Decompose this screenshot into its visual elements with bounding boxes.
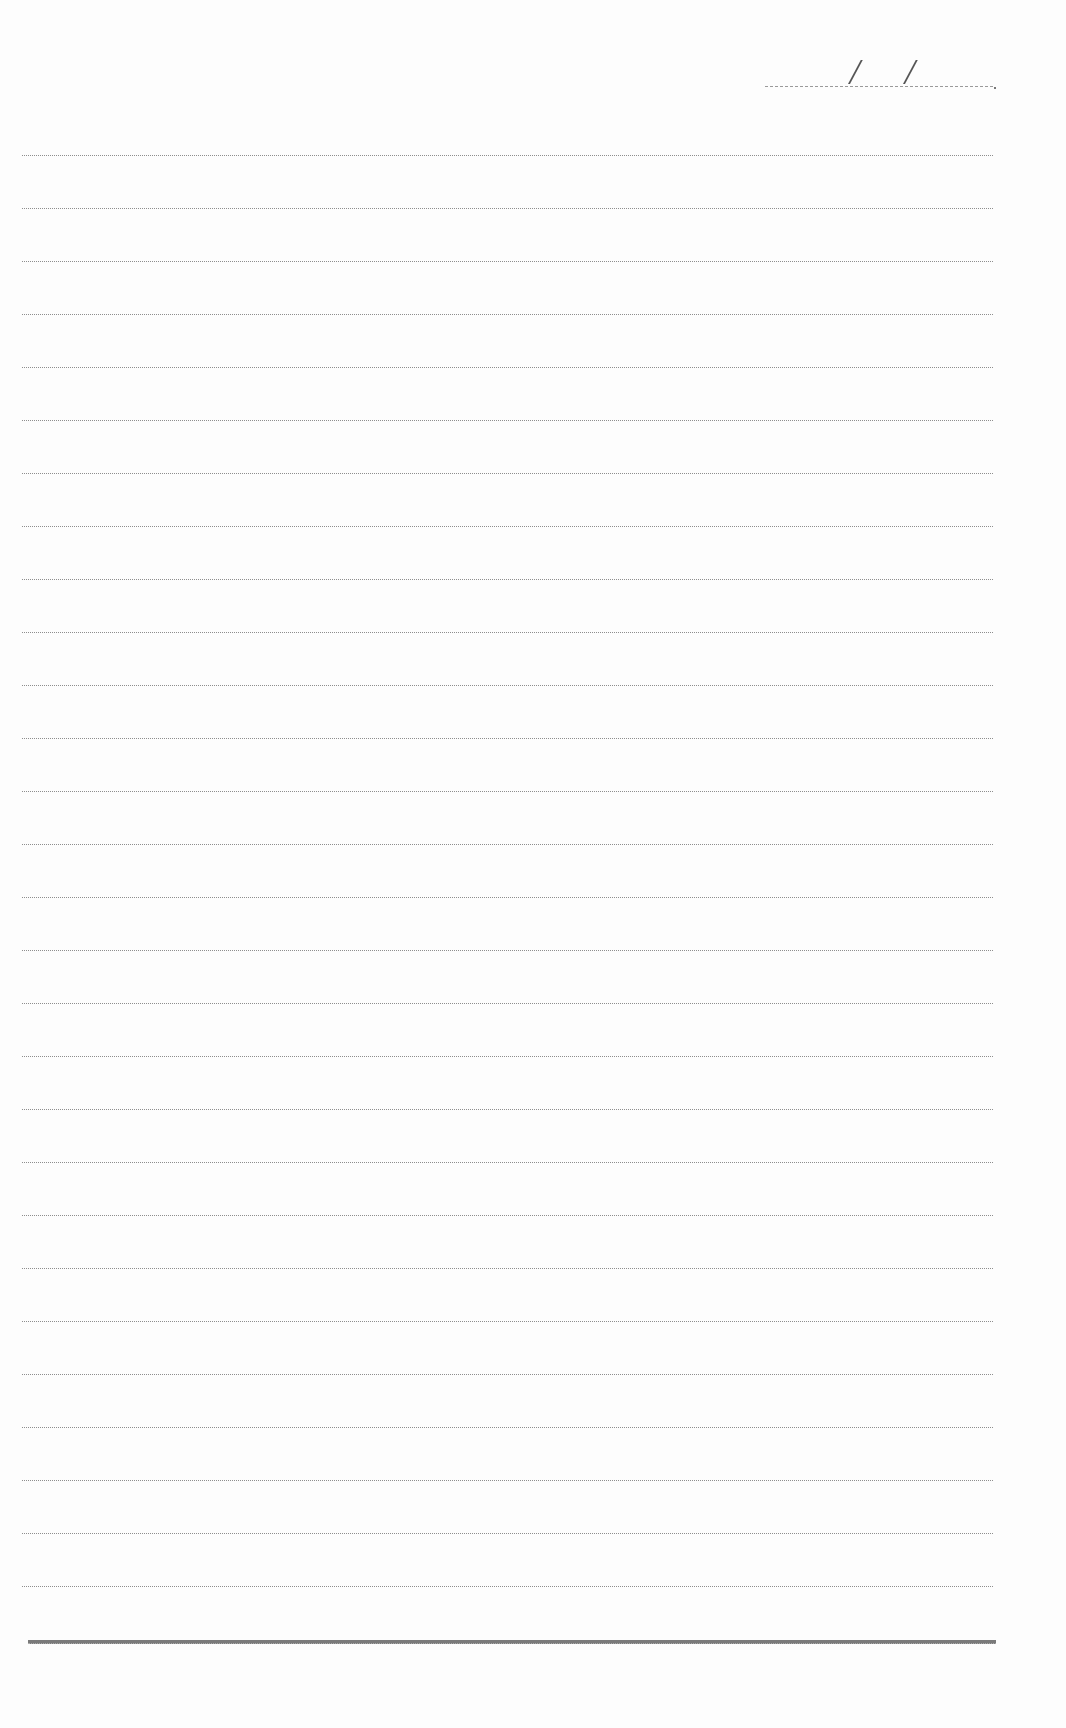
date-field[interactable] <box>765 55 993 87</box>
date-separator-slash <box>848 60 863 84</box>
ruled-line <box>22 1427 993 1428</box>
ruled-line <box>22 155 993 156</box>
ruled-line <box>22 1533 993 1534</box>
ruled-line <box>22 897 993 898</box>
date-separator-slash <box>903 60 918 84</box>
ruled-line <box>22 473 993 474</box>
ruled-line <box>22 1321 993 1322</box>
ruled-line <box>22 1162 993 1163</box>
notebook-page <box>0 0 1066 1728</box>
ruled-line <box>22 844 993 845</box>
ruled-line <box>22 685 993 686</box>
ruled-line <box>22 420 993 421</box>
ruled-line <box>22 1268 993 1269</box>
ruled-line <box>22 1374 993 1375</box>
ruled-line <box>22 738 993 739</box>
ruled-line <box>22 1003 993 1004</box>
ruled-line <box>22 261 993 262</box>
date-underline <box>765 86 993 87</box>
ruled-line <box>22 1215 993 1216</box>
ruled-line <box>22 1586 993 1587</box>
ruled-line <box>22 367 993 368</box>
ruled-line <box>22 314 993 315</box>
ruled-line <box>22 1109 993 1110</box>
ruled-line <box>22 208 993 209</box>
ruled-line <box>22 632 993 633</box>
ruled-line <box>22 791 993 792</box>
date-end-dot <box>994 87 996 89</box>
ruled-line <box>22 526 993 527</box>
ruled-line <box>22 950 993 951</box>
ruled-line <box>22 1480 993 1481</box>
ruled-line <box>22 579 993 580</box>
bottom-rule <box>28 1640 996 1644</box>
ruled-line <box>22 1056 993 1057</box>
